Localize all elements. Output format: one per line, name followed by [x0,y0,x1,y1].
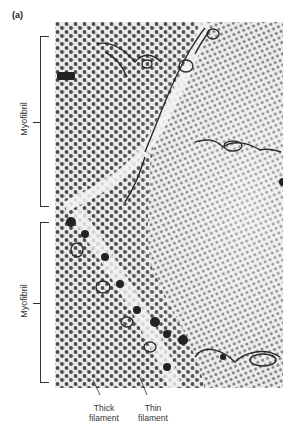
thick-filament-label-line1: Thick [84,403,124,413]
thin-filament-label-line2: filament [133,413,173,423]
thick-filament-label: Thick filament [84,403,124,423]
thin-filament-pointer [140,378,147,395]
thick-filament-pointer [93,380,100,395]
thin-filament-label-line1: Thin [133,403,173,413]
thick-filament-label-line2: filament [84,413,124,423]
thin-filament-label: Thin filament [133,403,173,423]
label-pointers [0,0,298,441]
